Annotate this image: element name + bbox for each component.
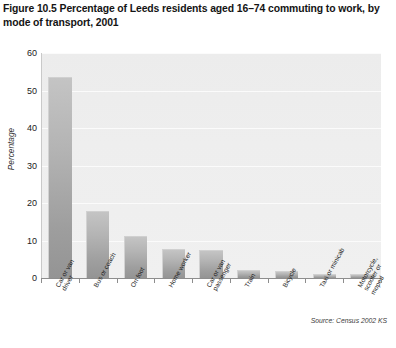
x-axis-tick	[79, 278, 80, 283]
y-axis-tick-label: 20	[3, 199, 37, 208]
x-axis-tick	[41, 278, 42, 283]
x-axis-tick	[154, 278, 155, 283]
bar	[48, 77, 71, 278]
bar-chart: 6050403020100 Percentage Car or van driv…	[0, 36, 396, 348]
y-axis-tick-label: 50	[3, 86, 37, 95]
figure-title: Figure 10.5 Percentage of Leeds resident…	[3, 2, 393, 29]
y-axis-tick-label: 60	[3, 49, 37, 58]
y-axis-tick-label: 10	[3, 236, 37, 245]
x-axis-tick	[230, 278, 231, 283]
y-axis-tick-label: 0	[3, 274, 37, 283]
x-axis-tick	[268, 278, 269, 283]
x-axis-tick	[381, 278, 382, 283]
x-axis-tick	[117, 278, 118, 283]
y-axis-title: Percentage	[6, 114, 16, 184]
x-axis-labels: Car or van driverBus or coachOn footHome…	[41, 285, 381, 343]
x-axis-tick	[305, 278, 306, 283]
x-axis-tick	[192, 278, 193, 283]
source-note: Source: Census 2002 KS	[311, 317, 387, 324]
x-axis-tick	[343, 278, 344, 283]
